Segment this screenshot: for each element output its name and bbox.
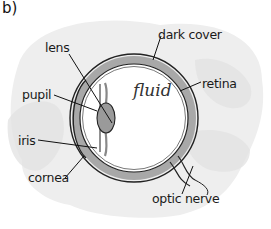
label-retina: retina xyxy=(202,76,237,91)
label-optic-nerve: optic nerve xyxy=(152,191,219,206)
figure-label: b) xyxy=(2,0,17,17)
label-dark-cover: dark cover xyxy=(158,27,222,42)
label-pupil: pupil xyxy=(22,87,51,102)
label-fluid: fluid xyxy=(133,80,172,100)
label-cornea: cornea xyxy=(28,170,69,185)
label-iris: iris xyxy=(18,133,35,148)
label-lens: lens xyxy=(45,40,69,55)
eye-illustration xyxy=(0,0,271,229)
eye-diagram: b) lens pupil iris cornea dark cover ret… xyxy=(0,0,271,229)
